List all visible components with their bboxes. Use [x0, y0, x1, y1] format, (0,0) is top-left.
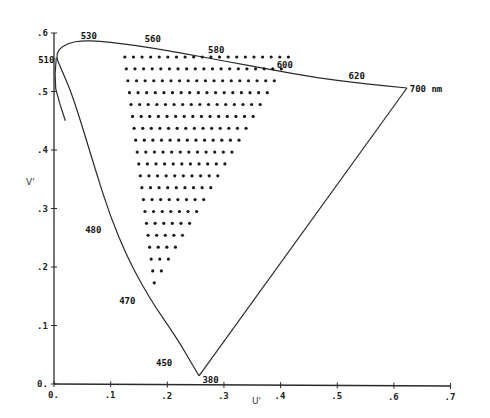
sample-dot [134, 139, 137, 142]
sample-dot [209, 55, 212, 58]
sample-dot [150, 257, 153, 260]
sample-dot [221, 79, 224, 82]
sample-dot [140, 115, 143, 118]
wavelength-label: 480 [85, 225, 101, 235]
sample-dot [187, 79, 190, 82]
sample-dot [133, 127, 136, 130]
sample-dot [194, 139, 197, 142]
y-tick-label: .4 [37, 145, 48, 155]
x-tick-label: .2 [161, 391, 172, 401]
sample-dot [205, 91, 208, 94]
sample-dot [146, 162, 149, 165]
sample-dot [158, 257, 161, 260]
sample-dot [197, 162, 200, 165]
wavelength-label: 530 [81, 31, 97, 41]
sample-dot [208, 174, 211, 177]
sample-dot [192, 55, 195, 58]
sample-dot [178, 79, 181, 82]
sample-dot [206, 162, 209, 165]
sample-dot [149, 186, 152, 189]
sample-dot [175, 55, 178, 58]
sample-dot [227, 55, 230, 58]
sample-dot [144, 79, 147, 82]
sample-dot [172, 162, 175, 165]
sample-dot [205, 150, 208, 153]
sample-dot [212, 79, 215, 82]
sample-dot [209, 186, 212, 189]
sample-dot [164, 103, 167, 106]
sample-dot [153, 281, 156, 284]
sample-dot [223, 91, 226, 94]
sample-dot [191, 115, 194, 118]
sample-dot [126, 79, 129, 82]
sample-dot [248, 91, 251, 94]
sample-dot [125, 67, 128, 70]
sample-dot [142, 198, 145, 201]
sample-dot [128, 91, 131, 94]
sample-dot [182, 174, 185, 177]
sample-dot [224, 103, 227, 106]
sample-dot [199, 174, 202, 177]
x-tick-label: .6 [388, 392, 399, 402]
x-tick-label: .1 [105, 390, 116, 400]
sample-dot [185, 198, 188, 201]
sample-dot [211, 67, 214, 70]
wavelength-labels: 380450470480510530560580600620700 nm [38, 31, 443, 385]
purple-line [199, 88, 407, 376]
sample-dot [161, 150, 164, 153]
sample-dot [219, 67, 222, 70]
sample-dot [157, 115, 160, 118]
sample-dot [156, 174, 159, 177]
wavelength-label: 620 [349, 71, 365, 81]
sample-dot [139, 174, 142, 177]
wavelength-label: 600 [277, 60, 293, 70]
sample-dot [202, 67, 205, 70]
sample-dot [259, 103, 262, 106]
x-tick-label: .5 [331, 391, 342, 401]
sample-dot [247, 79, 250, 82]
sample-dot [179, 222, 182, 225]
sample-dot [174, 115, 177, 118]
y-axis-title: V' [26, 177, 35, 187]
sample-dot [147, 103, 150, 106]
sample-dot [171, 222, 174, 225]
sample-dot [233, 103, 236, 106]
sample-dot [178, 210, 181, 213]
sample-dot [237, 139, 240, 142]
sample-dot [136, 91, 139, 94]
y-tick-label: .6 [37, 28, 48, 38]
sample-dot [176, 127, 179, 130]
sample-dot [230, 150, 233, 153]
axes: 0..1.2.3.4.5.6.70..1.2.3.4.5.6 [37, 28, 455, 402]
sample-dot [228, 67, 231, 70]
sample-dot [176, 198, 179, 201]
sample-dot [252, 115, 255, 118]
wavelength-label: 580 [208, 45, 224, 55]
sample-dot [154, 162, 157, 165]
sample-dot [198, 103, 201, 106]
sample-dot [145, 91, 148, 94]
sample-dot [168, 198, 171, 201]
sample-dot [161, 79, 164, 82]
sample-dot [168, 67, 171, 70]
sample-dot [236, 127, 239, 130]
sample-dot [231, 91, 234, 94]
sample-dot [154, 222, 157, 225]
x-tick-label: .4 [275, 391, 286, 401]
sample-dot [133, 67, 136, 70]
sample-dot [177, 139, 180, 142]
sample-dot [204, 79, 207, 82]
sample-dot [194, 67, 197, 70]
sample-dot [135, 79, 138, 82]
sample-dot [188, 91, 191, 94]
sample-dot [210, 127, 213, 130]
sample-dot [230, 79, 233, 82]
sample-dot [244, 55, 247, 58]
sample-dot [167, 127, 170, 130]
sample-dot [167, 257, 170, 260]
sample-dot [180, 91, 183, 94]
sample-dot [140, 186, 143, 189]
sample-dot [142, 67, 145, 70]
sample-dot [185, 67, 188, 70]
sample-dot [195, 210, 198, 213]
